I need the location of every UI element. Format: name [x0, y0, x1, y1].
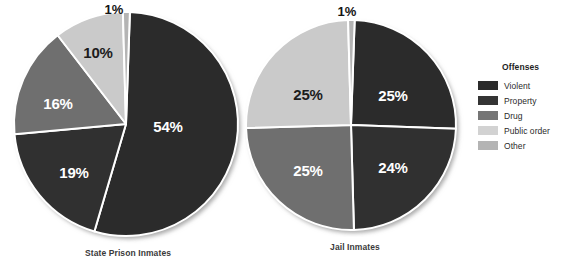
- pie-slice-public-order: [246, 20, 351, 128]
- slice-label-jail-other: 1%: [338, 4, 357, 19]
- legend-swatch-icon: [478, 96, 498, 105]
- legend-title: Offenses: [478, 62, 564, 72]
- legend-item-label: Public order: [504, 126, 550, 136]
- pie-chart-state-prison: 54% 19% 16% 10% 1% State Prison Inmates: [8, 6, 248, 246]
- chart-caption-jail: Jail Inmates: [245, 242, 465, 252]
- legend-swatch-icon: [478, 126, 498, 135]
- legend-item: Public order: [478, 123, 564, 138]
- legend-item: Violent: [478, 78, 564, 93]
- legend-item: Other: [478, 138, 564, 153]
- pie-svg-state-prison: [8, 6, 248, 246]
- legend-swatch-icon: [478, 81, 498, 90]
- chart-canvas: 54% 19% 16% 10% 1% State Prison Inmates: [0, 0, 564, 267]
- slice-label-state-property: 19%: [59, 164, 88, 181]
- slice-label-state-other: 1%: [105, 2, 124, 17]
- legend-items: ViolentPropertyDrugPublic orderOther: [478, 78, 564, 153]
- pie-svg-jail: [245, 12, 465, 237]
- pie-slice-violent: [351, 20, 456, 129]
- legend: Offenses ViolentPropertyDrugPublic order…: [478, 62, 564, 153]
- pie-slices-jail: [246, 20, 456, 230]
- slice-label-jail-violent: 25%: [378, 87, 407, 104]
- legend-item-label: Other: [504, 141, 526, 151]
- pie-slices-state-prison: [14, 12, 238, 236]
- chart-caption-state-prison: State Prison Inmates: [8, 248, 248, 258]
- legend-swatch-icon: [478, 111, 498, 120]
- slice-label-state-drug: 16%: [43, 95, 72, 112]
- slice-label-state-violent: 54%: [153, 118, 182, 135]
- legend-item-label: Violent: [504, 81, 530, 91]
- pie-slice-property: [351, 125, 456, 230]
- legend-item-label: Drug: [504, 111, 523, 121]
- slice-label-jail-public-order: 25%: [293, 86, 322, 103]
- slice-label-jail-property: 24%: [378, 159, 407, 176]
- legend-item-label: Property: [504, 96, 537, 106]
- slice-label-jail-drug: 25%: [293, 162, 322, 179]
- legend-item: Property: [478, 93, 564, 108]
- pie-chart-jail: 25% 24% 25% 25% 1% Jail Inmates: [245, 12, 465, 240]
- legend-swatch-icon: [478, 141, 498, 150]
- legend-item: Drug: [478, 108, 564, 123]
- slice-label-state-public-order: 10%: [83, 44, 112, 61]
